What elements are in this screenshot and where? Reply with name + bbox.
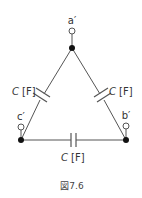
bottom-branch [21, 133, 126, 147]
right-branch [72, 48, 126, 140]
capacitor-left-icon [33, 88, 50, 102]
capacitor-left-label: C[F] [12, 86, 36, 97]
delta-capacitor-diagram: a′ c′ b′ C[F] C[F] C[F] 図7.6 [0, 0, 142, 198]
junction-right-icon [123, 137, 129, 143]
terminal-label-a: a′ [68, 15, 77, 26]
capacitor-bottom-icon [71, 133, 76, 147]
terminal-label-c: c′ [17, 111, 25, 122]
capacitor-bottom-label: C[F] [61, 152, 85, 163]
terminal-label-b: b′ [122, 110, 131, 121]
junction-left-icon [18, 137, 24, 143]
terminal-c-icon [18, 124, 24, 130]
capacitor-right-label: C[F] [109, 86, 133, 97]
terminal-a-icon [69, 28, 75, 34]
terminal-b-icon [123, 123, 129, 129]
junction-top-icon [69, 45, 75, 51]
figure-caption: 図7.6 [60, 181, 84, 191]
